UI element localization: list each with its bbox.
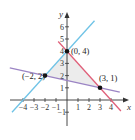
y-tick-label: 5: [60, 35, 64, 44]
x-tick-label: 3: [98, 103, 102, 112]
series-line: [12, 21, 95, 113]
y-tick-label: 3: [60, 59, 64, 68]
y-tick-label: 6: [60, 23, 64, 32]
x-tick-label: −2: [41, 103, 50, 112]
data-point: [98, 86, 103, 91]
y-tick-label: 1: [60, 84, 64, 93]
data-point: [65, 49, 70, 54]
x-tick-label: 1: [76, 103, 80, 112]
x-tick-label: −3: [30, 103, 39, 112]
x-tick-label: 2: [87, 103, 91, 112]
chart-plot: −4−3−2−11234−1123456xy (−2, 2)(0, 4)(3, …: [0, 0, 135, 140]
y-tick-label: −1: [57, 108, 66, 117]
x-tick-label: 4: [109, 103, 113, 112]
y-axis-label: y: [58, 9, 63, 19]
point-label: (3, 1): [99, 73, 118, 83]
point-label: (−2, 2): [22, 71, 45, 81]
point-label: (0, 4): [71, 46, 90, 56]
x-axis-label: x: [126, 102, 131, 112]
x-tick-label: −4: [19, 103, 28, 112]
y-axis-arrow-icon: [65, 12, 70, 18]
